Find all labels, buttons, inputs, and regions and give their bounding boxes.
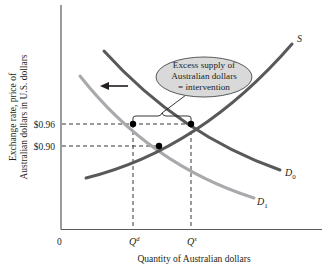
d1-label: D1 [256, 196, 268, 210]
y-tick-090: $0.90 [34, 142, 56, 152]
callout-line-3: = intervention [178, 82, 230, 92]
x-axis-title: Quantity of Australian dollars [137, 254, 250, 264]
origin-label: 0 [57, 237, 62, 247]
point-s-d0-096 [188, 121, 194, 127]
x-tick-qd: Qd [129, 235, 140, 247]
exchange-rate-chart: Excess supply of Australian dollars = in… [0, 0, 322, 268]
callout-line-2: Australian dollars [171, 71, 237, 81]
guide-lines [62, 124, 191, 229]
callout-line-1: Excess supply of [173, 60, 236, 70]
y-tick-096: $0.96 [34, 120, 56, 130]
shift-arrow-icon [100, 82, 128, 90]
y-axis-title-line-1: Exchange rate, price of [8, 72, 18, 161]
callout-pointer [162, 95, 186, 113]
point-s-d1-090 [156, 143, 162, 149]
supply-label: S [297, 33, 302, 44]
chart-canvas: Excess supply of Australian dollars = in… [0, 0, 322, 268]
x-tick-qs: Qs [187, 235, 197, 247]
y-axis-title-line-2: Australian dollars in U.S. dollars [19, 54, 29, 179]
d0-label: D0 [284, 167, 296, 181]
point-d1-096 [130, 121, 136, 127]
